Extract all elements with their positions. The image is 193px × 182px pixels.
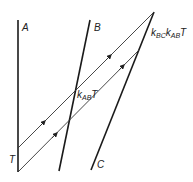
- label-a: A: [21, 22, 29, 33]
- label-kab-t: kABT: [77, 89, 98, 101]
- arrow-icon: [40, 122, 44, 126]
- worldline-c: [91, 12, 154, 170]
- spacetime-diagram: A B C T kABT kBCkABT: [0, 0, 193, 182]
- arrow-icon: [106, 56, 110, 60]
- arrow-icon: [119, 66, 123, 70]
- label-c: C: [97, 159, 105, 170]
- label-kbc-kab-t: kBCkABT: [151, 27, 187, 39]
- label-b: B: [94, 22, 101, 33]
- arrow-icon: [52, 134, 56, 138]
- light-signal-upper: [18, 12, 154, 148]
- label-t: T: [9, 154, 16, 165]
